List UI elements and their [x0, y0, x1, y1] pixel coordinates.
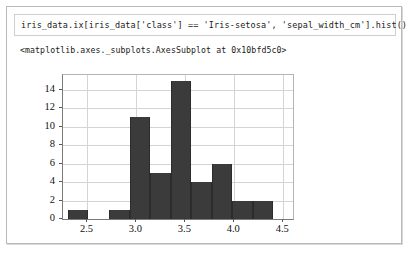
- notebook-cell-card: iris_data.ix[iris_data['class'] == 'Iris…: [6, 6, 402, 244]
- histogram-bar: [191, 182, 212, 219]
- x-tick-label: 4.5: [262, 224, 302, 235]
- cell-output-repr: <matplotlib.axes._subplots.AxesSubplot a…: [20, 45, 287, 55]
- y-tick-label: 0: [20, 213, 55, 224]
- y-tick-mark: [59, 107, 62, 108]
- plot-area: [62, 74, 294, 220]
- y-tick-label: 2: [20, 195, 55, 206]
- x-tick-label: 3.5: [164, 224, 204, 235]
- x-gridline: [283, 75, 284, 219]
- histogram-figure: 024681012142.53.03.54.04.5: [20, 65, 350, 237]
- histogram-bar: [212, 164, 233, 219]
- x-tick-label: 2.5: [66, 224, 106, 235]
- x-gridline: [87, 75, 88, 219]
- x-tick-mark: [282, 219, 283, 222]
- code-input-cell[interactable]: iris_data.ix[iris_data['class'] == 'Iris…: [14, 14, 396, 36]
- x-tick-label: 3.0: [115, 224, 155, 235]
- y-tick-label: 6: [20, 158, 55, 169]
- y-tick-mark: [59, 218, 62, 219]
- histogram-bar: [232, 201, 253, 219]
- y-tick-mark: [59, 144, 62, 145]
- y-tick-mark: [59, 126, 62, 127]
- x-tick-mark: [135, 219, 136, 222]
- y-tick-label: 10: [20, 121, 55, 132]
- code-text: iris_data.ix[iris_data['class'] == 'Iris…: [15, 20, 407, 30]
- histogram-bar: [68, 210, 89, 219]
- y-tick-mark: [59, 163, 62, 164]
- y-tick-label: 12: [20, 102, 55, 113]
- y-tick-mark: [59, 181, 62, 182]
- histogram-bar: [171, 81, 192, 219]
- y-tick-label: 8: [20, 139, 55, 150]
- y-tick-mark: [59, 200, 62, 201]
- y-tick-mark: [59, 89, 62, 90]
- histogram-bar: [150, 173, 171, 219]
- histogram-bar: [109, 210, 130, 219]
- y-tick-label: 4: [20, 176, 55, 187]
- y-tick-label: 14: [20, 84, 55, 95]
- x-tick-mark: [184, 219, 185, 222]
- x-tick-label: 4.0: [213, 224, 253, 235]
- x-tick-mark: [233, 219, 234, 222]
- x-tick-mark: [86, 219, 87, 222]
- x-gridline: [234, 75, 235, 219]
- histogram-bar: [130, 117, 151, 219]
- histogram-bar: [253, 201, 274, 219]
